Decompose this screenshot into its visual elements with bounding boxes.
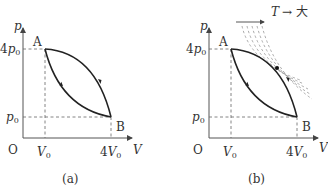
point-B-label: B — [302, 120, 311, 134]
tick-4V0: 4V0 — [286, 145, 307, 160]
x-axis-label: V — [133, 143, 143, 157]
pv-diagram-figure: p V O A B 4p0 p0 V0 4V0 (a) T → 大 — [0, 0, 328, 191]
temperature-note: → 大 — [282, 5, 308, 19]
tick-V0: V0 — [223, 145, 237, 160]
panel-b: T → 大 p V O A B 4p0 p0 V0 4V0 (b) — [186, 5, 328, 186]
tick-V0: V0 — [37, 145, 51, 160]
panel-a: p V O A B 4p0 p0 V0 4V0 (a) — [0, 19, 143, 186]
point-A-label: A — [218, 35, 228, 49]
point-B-label: B — [116, 120, 125, 134]
tick-4V0: 4V0 — [100, 145, 121, 160]
caption-a: (a) — [62, 172, 79, 186]
upper-process-curve — [45, 49, 111, 117]
isotherm-family — [242, 26, 312, 99]
tick-p0: p0 — [6, 110, 19, 125]
caption-b: (b) — [248, 172, 265, 186]
y-axis-label: p — [200, 19, 208, 33]
x-axis-label: V — [319, 141, 328, 155]
tick-4p0: 4p0 — [186, 42, 206, 57]
origin-label: O — [8, 143, 18, 157]
tick-p0: p0 — [192, 110, 205, 125]
upper-process-curve — [231, 49, 297, 117]
temperature-symbol: T — [271, 5, 280, 19]
tangent-point-marker — [275, 66, 279, 70]
origin-label: O — [193, 143, 203, 157]
tick-4p0: 4p0 — [0, 42, 20, 57]
point-A-label: A — [32, 35, 42, 49]
y-axis-label: p — [14, 19, 22, 33]
